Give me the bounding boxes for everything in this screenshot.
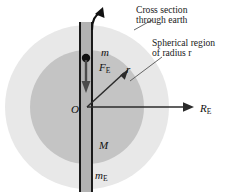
diagram-canvas [0, 0, 242, 196]
spherical-region-callout: Spherical region of radius r [152, 38, 215, 59]
label-radius-r: r [126, 64, 130, 76]
label-center-O: O [71, 104, 79, 116]
radius-RE-arrowhead-icon [183, 102, 194, 112]
cross-section-callout-line2: through earth [136, 15, 187, 25]
cross-section-callout: Cross section through earth [136, 5, 187, 26]
label-force-symbol: F [99, 61, 106, 73]
label-earth-mass-symbol: m [95, 169, 103, 181]
label-force-FE: FE [99, 62, 110, 75]
label-force-subscript: E [106, 66, 111, 75]
label-earth-radius-RE: RE [200, 103, 211, 116]
label-earth-mass-subscript: E [103, 174, 108, 183]
label-earth-radius-symbol: R [200, 102, 207, 114]
physics-diagram-earth-cross-section: Cross section through earth Spherical re… [0, 0, 242, 196]
spherical-region-callout-line2: of radius r [152, 48, 215, 58]
label-enclosed-mass-M: M [99, 140, 108, 152]
label-mass-m: m [101, 47, 109, 59]
label-earth-mass-mE: mE [95, 170, 108, 183]
label-earth-radius-subscript: E [207, 107, 212, 116]
